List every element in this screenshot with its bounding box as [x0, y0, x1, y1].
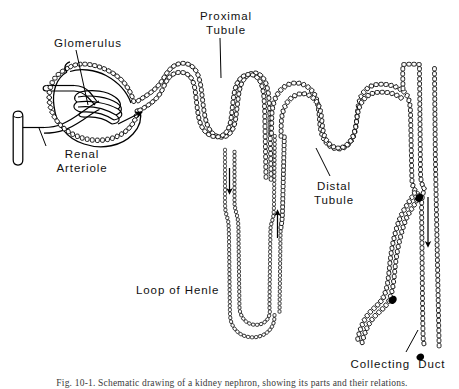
leader-collecting-duct [406, 330, 418, 352]
label-glomerulus: Glomerulus [38, 36, 138, 50]
label-collecting-duct: Collecting Duct [344, 357, 452, 371]
label-loop-of-henle: Loop of Henle [136, 283, 240, 297]
distal-tubule [270, 81, 404, 151]
label-proximal-tubule: Proximal Tubule [186, 9, 266, 37]
leader-distal-tubule [316, 148, 330, 176]
figure-caption: Fig. 10-1. Schematic drawing of a kidney… [22, 377, 442, 389]
adjacent-nephron-branch [355, 190, 424, 360]
leader-renal-arteriole [39, 128, 46, 146]
collecting-duct [418, 67, 441, 348]
label-distal-tubule: Distal Tubule [296, 179, 372, 207]
proximal-tubule [118, 61, 273, 181]
glomerulus-capillary-tuft [74, 91, 122, 124]
leader-proximal-tubule [220, 38, 221, 78]
label-renal-arteriole: Renal Arteriole [36, 147, 128, 175]
